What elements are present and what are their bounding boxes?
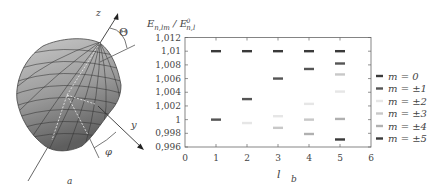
legend-item-label: m = ±4 xyxy=(388,121,427,132)
z-axis-arrow-icon xyxy=(114,13,119,20)
y-tick-label: 1,01 xyxy=(161,46,181,56)
phi-label: φ xyxy=(105,146,112,157)
x-tick-label: 6 xyxy=(368,153,374,163)
legend-swatch xyxy=(376,75,383,77)
y-tick-label: 1 xyxy=(175,115,181,125)
y-tick-label: 1,004 xyxy=(155,87,181,97)
x-tick-label: 3 xyxy=(275,153,281,163)
energy-level-marker xyxy=(335,50,345,52)
x-tick-label: 5 xyxy=(337,153,343,163)
y-axis-title: En,lm / E0n,l xyxy=(146,17,195,32)
legend: m = 0m = ±1m = ±2m = ±3m = ±4m = ±5 xyxy=(376,71,427,145)
energy-level-marker xyxy=(273,77,283,79)
energy-level-marker xyxy=(335,118,345,120)
deformed-sphere-surface xyxy=(17,39,121,151)
theta-label: Θ xyxy=(119,26,128,39)
legend-swatch xyxy=(376,137,383,139)
x-tick-label: 1 xyxy=(213,153,219,163)
y-tick-label: 0,996 xyxy=(155,142,181,152)
y-axis-label: y xyxy=(130,119,137,130)
energy-level-marker xyxy=(242,122,252,124)
x-tick-label: 4 xyxy=(306,153,312,163)
x-tick-label: 2 xyxy=(244,153,250,163)
panel-a-3d-shape: z Θ y φ a xyxy=(10,8,144,186)
energy-level-marker xyxy=(273,50,283,52)
y-tick-label: 1,012 xyxy=(155,33,181,43)
legend-swatch xyxy=(376,125,383,127)
energy-level-marker xyxy=(335,138,345,140)
energy-level-marker xyxy=(304,68,314,70)
legend-item-label: m = ±1 xyxy=(388,83,427,94)
legend-swatch xyxy=(376,112,383,114)
y-tick-label: 0,998 xyxy=(155,128,181,138)
energy-level-marker xyxy=(242,98,252,100)
figure: z Θ y φ a En,lm / E0n,l 0,9960,99811,002… xyxy=(0,0,439,192)
energy-level-marker xyxy=(304,133,314,135)
panel-b-label: b xyxy=(291,174,297,184)
panel-b-chart: En,lm / E0n,l 0,9960,99811,0021,0041,006… xyxy=(146,17,427,184)
legend-swatch xyxy=(376,100,383,102)
energy-level-marker xyxy=(273,115,283,117)
y-tick-label: 1,002 xyxy=(155,101,181,111)
x-tick-label: 0 xyxy=(182,153,188,163)
y-tick-label: 1,006 xyxy=(155,74,181,84)
y-tick-label: 1,008 xyxy=(155,60,181,70)
energy-level-marker xyxy=(335,62,345,64)
energy-level-marker xyxy=(211,50,221,52)
panel-a-label: a xyxy=(67,176,72,186)
energy-level-marker xyxy=(273,127,283,129)
z-axis-label: z xyxy=(95,8,101,18)
data-markers xyxy=(211,50,345,141)
energy-level-marker xyxy=(335,73,345,75)
energy-level-marker xyxy=(304,103,314,105)
energy-level-marker xyxy=(335,90,345,92)
legend-item-label: m = ±5 xyxy=(388,133,427,144)
x-axis-title: l xyxy=(277,168,281,181)
x-axis-ticks: 0123456 xyxy=(182,38,374,164)
energy-level-marker xyxy=(304,50,314,52)
legend-item-label: m = ±2 xyxy=(388,96,427,107)
legend-item-label: m = ±3 xyxy=(388,108,427,119)
energy-level-marker xyxy=(304,118,314,120)
energy-level-marker xyxy=(211,118,221,120)
legend-item-label: m = 0 xyxy=(388,71,419,82)
legend-swatch xyxy=(376,87,383,89)
energy-level-marker xyxy=(242,50,252,52)
